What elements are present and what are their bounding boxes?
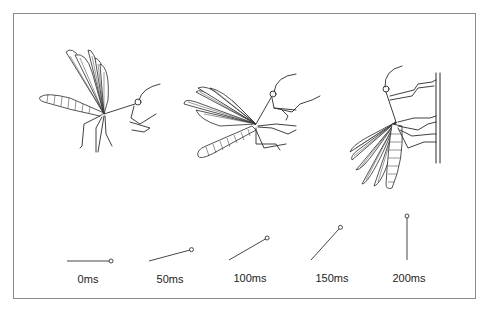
thorax [386,92,396,122]
time-label-50ms: 50ms [157,273,184,285]
time-label-0ms: 0ms [78,273,99,285]
time-label-150ms: 150ms [315,272,349,284]
angle-indicator-line-150ms [311,227,340,260]
angle-indicator-head-0ms [109,259,113,263]
legs [256,124,296,150]
angle-indicator-head-50ms [190,248,194,252]
wall-surface [436,73,440,163]
angle-indicator-line-50ms [149,250,192,261]
abdomen [198,126,256,158]
antenna [385,66,402,87]
time-label-100ms: 100ms [233,272,267,284]
antenna [274,74,296,92]
foreleg [390,80,436,100]
insect-in-flight [40,50,161,152]
thorax [256,96,272,124]
head [135,99,141,105]
head [270,91,276,97]
legs [80,116,112,152]
wing-fan [184,87,256,126]
foreleg [272,96,320,120]
figure-canvas: 0ms 50ms 100ms 150ms 200ms [0,0,491,314]
angle-indicator-line-100ms [229,238,267,260]
abdomen [386,124,402,189]
angle-indicators [67,214,409,263]
time-label-200ms: 200ms [392,272,426,284]
thorax [104,104,135,114]
angle-indicator-head-150ms [338,225,342,229]
angle-indicator-head-200ms [405,214,409,218]
antenna [139,84,160,100]
head [383,86,389,92]
angle-indicator-head-100ms [265,236,269,240]
insect-landed-on-wall [350,66,440,189]
legs [398,116,436,148]
foreleg [130,106,156,132]
insect-pitching-up [184,74,320,158]
